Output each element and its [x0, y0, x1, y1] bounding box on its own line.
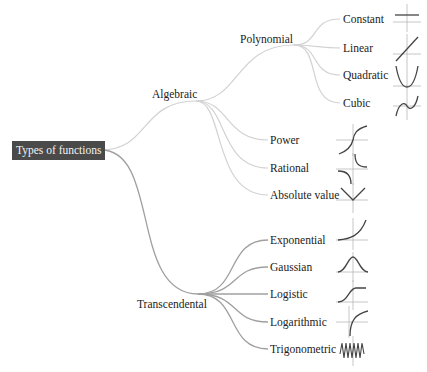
- node-cubic[interactable]: Cubic: [343, 96, 370, 110]
- node-gaussian[interactable]: Gaussian: [270, 260, 312, 274]
- gaussian-graph-icon: [336, 252, 368, 282]
- node-linear[interactable]: Linear: [343, 41, 373, 55]
- quadratic-graph-icon: [393, 62, 421, 92]
- rational-graph-icon: [336, 153, 368, 185]
- node-constant[interactable]: Constant: [343, 12, 384, 26]
- cubic-graph-icon: [393, 92, 421, 120]
- logarithmic-graph-icon: [336, 306, 368, 338]
- node-power[interactable]: Power: [270, 133, 299, 147]
- node-logarithmic[interactable]: Logarithmic: [270, 315, 327, 329]
- exponential-graph-icon: [336, 218, 368, 250]
- node-quadratic[interactable]: Quadratic: [343, 68, 388, 82]
- node-transcendental[interactable]: Transcendental: [137, 297, 207, 311]
- node-polynomial[interactable]: Polynomial: [240, 32, 293, 46]
- node-trigonometric[interactable]: Trigonometric: [270, 342, 336, 356]
- root-node[interactable]: Types of functions: [12, 141, 105, 160]
- node-rational[interactable]: Rational: [270, 161, 309, 175]
- absolute-value-graph-icon: [336, 183, 368, 213]
- node-logistic[interactable]: Logistic: [270, 287, 308, 301]
- linear-graph-icon: [393, 34, 421, 62]
- root-label: Types of functions: [16, 144, 101, 156]
- node-absolute-value[interactable]: Absolute value: [270, 188, 339, 202]
- trigonometric-graph-icon: [336, 336, 368, 366]
- node-algebraic[interactable]: Algebraic: [152, 87, 197, 101]
- power-graph-icon: [336, 124, 368, 156]
- constant-graph-icon: [393, 4, 421, 32]
- node-exponential[interactable]: Exponential: [270, 233, 326, 247]
